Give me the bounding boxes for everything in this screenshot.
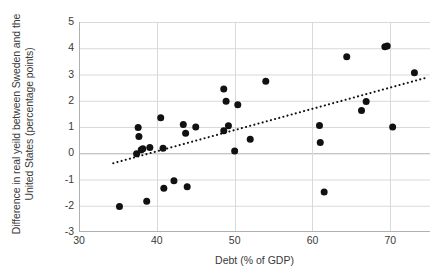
y-axis-title: Difference in real yeild between Sweden … (0, 0, 46, 248)
data-point (358, 107, 365, 114)
data-point (231, 147, 238, 154)
data-point (139, 145, 146, 152)
y-tick-label: 5 (52, 16, 74, 27)
data-point (316, 122, 323, 129)
data-point (146, 144, 153, 151)
data-point (384, 42, 391, 49)
data-point (170, 177, 177, 184)
data-point (220, 85, 227, 92)
data-point (223, 98, 230, 105)
data-point (321, 189, 328, 196)
data-point (234, 101, 241, 108)
x-tick-label: 30 (64, 235, 94, 246)
y-tick-label: 0 (52, 147, 74, 158)
gridlines (79, 22, 430, 232)
data-point (343, 53, 350, 60)
y-tick-label: -2 (52, 200, 74, 211)
data-point (160, 185, 167, 192)
y-axis-title-wrapper: Difference in real yeild between Sweden … (0, 0, 46, 248)
data-point (135, 133, 142, 140)
x-tick-label: 60 (297, 235, 327, 246)
data-point (157, 114, 164, 121)
y-tick-label: 3 (52, 69, 74, 80)
data-point (116, 203, 123, 210)
y-tick-label: 4 (52, 42, 74, 53)
data-point (135, 124, 142, 131)
plot-svg (79, 22, 430, 232)
y-tick-label: 1 (52, 121, 74, 132)
x-tick-label: 40 (142, 235, 172, 246)
y-tick-label: -1 (52, 174, 74, 185)
data-point (160, 145, 167, 152)
data-point (225, 122, 232, 129)
data-point (363, 98, 370, 105)
x-tick-label: 70 (375, 235, 405, 246)
data-point (317, 139, 324, 146)
data-point (192, 124, 199, 131)
data-point (262, 78, 269, 85)
data-point (182, 130, 189, 137)
y-tick-label: 2 (52, 95, 74, 106)
data-point (411, 69, 418, 76)
data-point (389, 124, 396, 131)
data-point (247, 136, 254, 143)
data-point (143, 198, 150, 205)
x-tick-label: 50 (220, 235, 250, 246)
plot-area (79, 22, 430, 232)
x-axis-title: Debt (% of GDP) (79, 254, 430, 266)
data-point (184, 183, 191, 190)
data-point (180, 121, 187, 128)
data-points (116, 42, 418, 210)
scatter-chart-figure: Difference in real yeild between Sweden … (0, 0, 442, 280)
